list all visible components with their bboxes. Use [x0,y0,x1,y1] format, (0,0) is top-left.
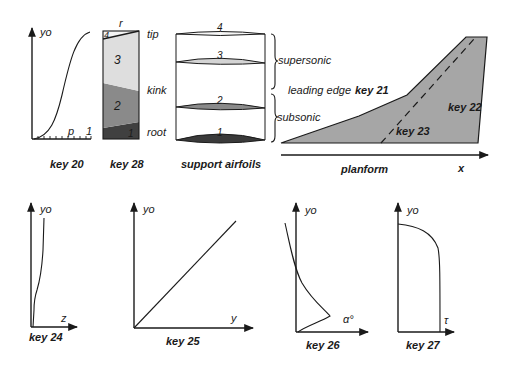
subsonic-label: subsonic [277,111,321,123]
y-axis-label: yo [304,204,317,216]
linear-line [134,221,236,328]
key-26-plot: yo α° key 26 [285,203,368,351]
supersonic-label: supersonic [278,54,332,66]
region-2-label: 2 [113,99,121,113]
caption: key 24 [29,331,63,343]
caption: key 20 [50,158,85,170]
region-4-label: 4 [104,30,109,40]
top-label: r [119,17,124,29]
key-24-plot: yo z key 24 [29,203,77,343]
x-axis-label: p [67,125,74,137]
caption: key 28 [110,158,145,170]
supersonic-brace [271,34,278,89]
tip-label: tip [147,28,159,40]
wing-design-keys-diagram: yo p 1 key 20 r 4 3 2 1 tip kink root ke… [0,0,515,372]
key-22-label: key 22 [448,101,482,113]
region-3-label: 3 [114,53,121,67]
y-axis-label: yo [39,26,52,38]
caption: key 27 [406,339,441,351]
x-axis-label: z [60,312,67,324]
y-axis-label: yo [142,203,155,215]
x-axis-label: α° [343,313,354,325]
region-3 [103,31,139,91]
x-axis-label: y [230,312,238,324]
curve [285,223,330,332]
x-axis-label: x [457,162,465,174]
support-airfoils: 4 3 2 1 supersonic subsonic support airf… [176,22,332,170]
s-curve [34,32,90,139]
key-28-wing-regions: r 4 3 2 1 tip kink root key 28 [103,17,167,170]
caption: key 25 [166,335,201,347]
kink-label: kink [147,84,167,96]
region-1-label: 1 [128,128,134,139]
caption: planform [340,163,388,175]
root-label: root [147,126,167,138]
caption: key 26 [306,339,341,351]
airfoil-2-label: 2 [216,95,223,106]
curve [398,224,440,332]
key-23-label: key 23 [396,125,430,137]
y-axis-label: yo [39,203,52,215]
airfoil-4-label: 4 [217,22,223,33]
leading-edge-label: leading edge [288,84,351,96]
x-end-tick-label: 1 [86,125,92,137]
key-21-label: key 21 [355,84,389,96]
y-axis-label: yo [406,204,419,216]
caption: support airfoils [181,158,261,170]
curve [33,218,44,327]
x-axis-label: τ [444,314,449,326]
key-20-plot: yo p 1 key 20 [32,26,92,170]
airfoil-1-label: 1 [217,127,223,138]
airfoil-3-label: 3 [217,50,223,61]
key-27-plot: yo τ key 27 [398,203,454,351]
key-25-plot: yo y key 25 [134,203,253,347]
